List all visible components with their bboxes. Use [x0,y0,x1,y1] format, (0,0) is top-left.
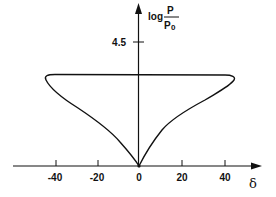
chart-canvas: -40 -20 0 20 40 δ 4.5 log P P 0 [0,0,276,197]
y-label-numerator: P [167,5,174,16]
x-tick-labels: -40 -20 0 20 40 [48,172,231,183]
y-label-subscript: 0 [171,23,176,32]
chart-figure: -40 -20 0 20 40 δ 4.5 log P P 0 [0,0,276,197]
y-label-denominator: P [164,20,171,31]
x-axis-label: δ [249,176,257,191]
x-tick-label: 20 [176,172,188,183]
x-axis-arrow-icon [251,163,262,170]
loop-curve [45,75,234,167]
x-tick-label: -40 [48,172,63,183]
y-axis-label: log P P 0 [148,5,179,32]
y-tick-label: 4.5 [112,37,126,48]
x-tick-label: 0 [136,172,142,183]
y-label-prefix: log [148,11,163,22]
x-tick-label: 40 [219,172,231,183]
x-tick-label: -20 [90,172,105,183]
y-axis-arrow-icon [135,3,142,14]
origin-point [137,164,140,167]
